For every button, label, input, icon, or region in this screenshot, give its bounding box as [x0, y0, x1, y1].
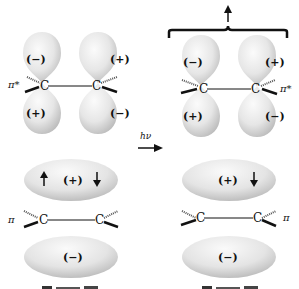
- wedge-bond: [24, 222, 38, 227]
- carbon-left: C: [196, 211, 205, 225]
- carbon-right: C: [251, 82, 260, 96]
- pi-pi-star-excitation-diagram: (−) (+) (+) (−) C C π* (−) (+) (+) (−): [0, 0, 299, 289]
- sign-left-top: (−): [26, 53, 46, 66]
- sign-upper: (+): [218, 174, 238, 187]
- carbon-left: C: [199, 82, 208, 96]
- electron-up-arrow-icon: [224, 5, 232, 22]
- hash-bond: [104, 211, 118, 218]
- carbon-right: C: [253, 211, 262, 225]
- wedge-bond: [262, 89, 277, 94]
- sign-left-bottom: (+): [26, 107, 46, 120]
- hash-bond: [182, 211, 196, 218]
- carbon-left: C: [39, 213, 48, 227]
- hash-bond: [262, 211, 276, 218]
- excited-pi-orbital: (+) C C π (−): [181, 159, 290, 289]
- sign-upper: (+): [63, 174, 83, 187]
- ground-pi-star-orbital: (−) (+) (+) (−) C C π*: [7, 32, 130, 134]
- ground-pi-orbital: (+) C C π (−): [7, 159, 118, 289]
- sign-right-bottom: (−): [265, 110, 285, 123]
- sign-lower: (−): [218, 251, 238, 264]
- sign-right-top: (+): [110, 53, 130, 66]
- wedge-bond: [262, 220, 276, 226]
- carbon-left: C: [40, 79, 49, 93]
- hash-bond: [101, 77, 117, 83]
- excited-pi-star-orbital: (−) (+) (+) (−) C C π*: [169, 5, 292, 137]
- orbital-label-pi: π: [7, 214, 15, 225]
- hash-bond: [182, 80, 198, 86]
- right-arrow-icon: [154, 144, 163, 152]
- carbon-right: C: [95, 213, 104, 227]
- wedge-bond: [181, 220, 196, 225]
- photon-absorption: hν: [138, 131, 163, 152]
- hash-bond: [261, 80, 275, 86]
- wedge-bond: [181, 89, 197, 93]
- curly-brace: [169, 26, 287, 38]
- sign-left-bottom: (+): [183, 110, 203, 123]
- sign-right-top: (+): [265, 56, 285, 69]
- carbon-right: C: [92, 79, 101, 93]
- sign-lower: (−): [63, 251, 83, 264]
- orbital-label-pi: π: [282, 212, 290, 223]
- sign-left-top: (−): [183, 56, 203, 69]
- orbital-label-pi-star: π*: [7, 79, 20, 90]
- orbital-label-pi-star: π*: [279, 83, 292, 94]
- sign-right-bottom: (−): [110, 107, 130, 120]
- wedge-bond: [104, 222, 118, 227]
- hv-label: hν: [140, 131, 152, 141]
- hash-bond: [24, 211, 38, 218]
